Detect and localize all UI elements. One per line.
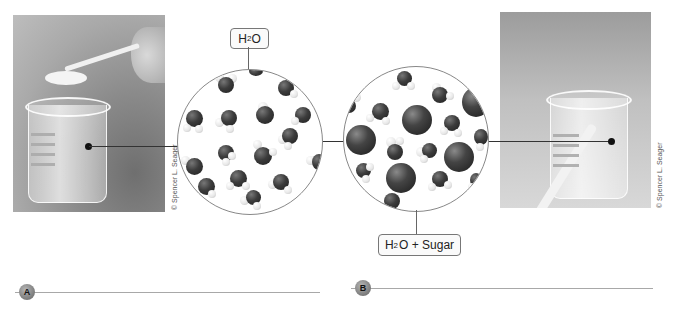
- graduation-mark: [553, 144, 579, 147]
- marker-a: A: [19, 284, 35, 300]
- sugar-molecule: [462, 87, 489, 117]
- hand: [131, 27, 165, 83]
- spoon-bowl: [45, 71, 87, 85]
- connector-left-beaker-to-water-circle: [89, 146, 180, 147]
- sugar-molecule: [402, 105, 432, 135]
- sugar-molecule: [444, 142, 474, 172]
- photo-credit-left: © Spencer L. Seager: [171, 145, 178, 210]
- photo-credit-right: © Spencer L. Seager: [656, 143, 663, 208]
- graduation-mark: [553, 134, 579, 137]
- graduation-mark: [553, 164, 579, 167]
- sugar-solution-molecules-circle: [343, 66, 489, 212]
- graduation-mark: [31, 133, 55, 136]
- photo-sugar-solution-beaker: [500, 12, 651, 208]
- graduation-mark: [553, 154, 579, 157]
- photo-water-beaker: [13, 15, 165, 212]
- connector-between-circles: [320, 141, 344, 142]
- label-water: H2O: [230, 28, 269, 49]
- label-water-main: H: [238, 32, 247, 46]
- label-solution-main: H: [385, 238, 394, 252]
- pointer-dot-right: [608, 138, 615, 145]
- spoon-handle: [64, 43, 140, 72]
- sugar-molecule: [386, 163, 416, 193]
- label-water-sugar: H2O + Sugar: [378, 234, 461, 256]
- label-solution-stem: [416, 210, 417, 234]
- connector-solution-circle-to-right-beaker: [486, 141, 612, 142]
- sugar-molecule: [359, 66, 383, 79]
- water-molecules-circle: [177, 69, 323, 215]
- marker-b: B: [355, 280, 371, 296]
- label-water-stem: [248, 47, 249, 70]
- label-water-tail: O: [251, 32, 260, 46]
- answer-line-b: [351, 288, 653, 289]
- sugar-molecule: [346, 125, 376, 155]
- graduation-mark: [31, 163, 55, 166]
- answer-line-a: [15, 292, 320, 293]
- graduation-mark: [31, 143, 55, 146]
- label-solution-tail: O + Sugar: [399, 238, 454, 252]
- graduation-mark: [31, 153, 55, 156]
- label-solution-sub: 2: [394, 241, 398, 250]
